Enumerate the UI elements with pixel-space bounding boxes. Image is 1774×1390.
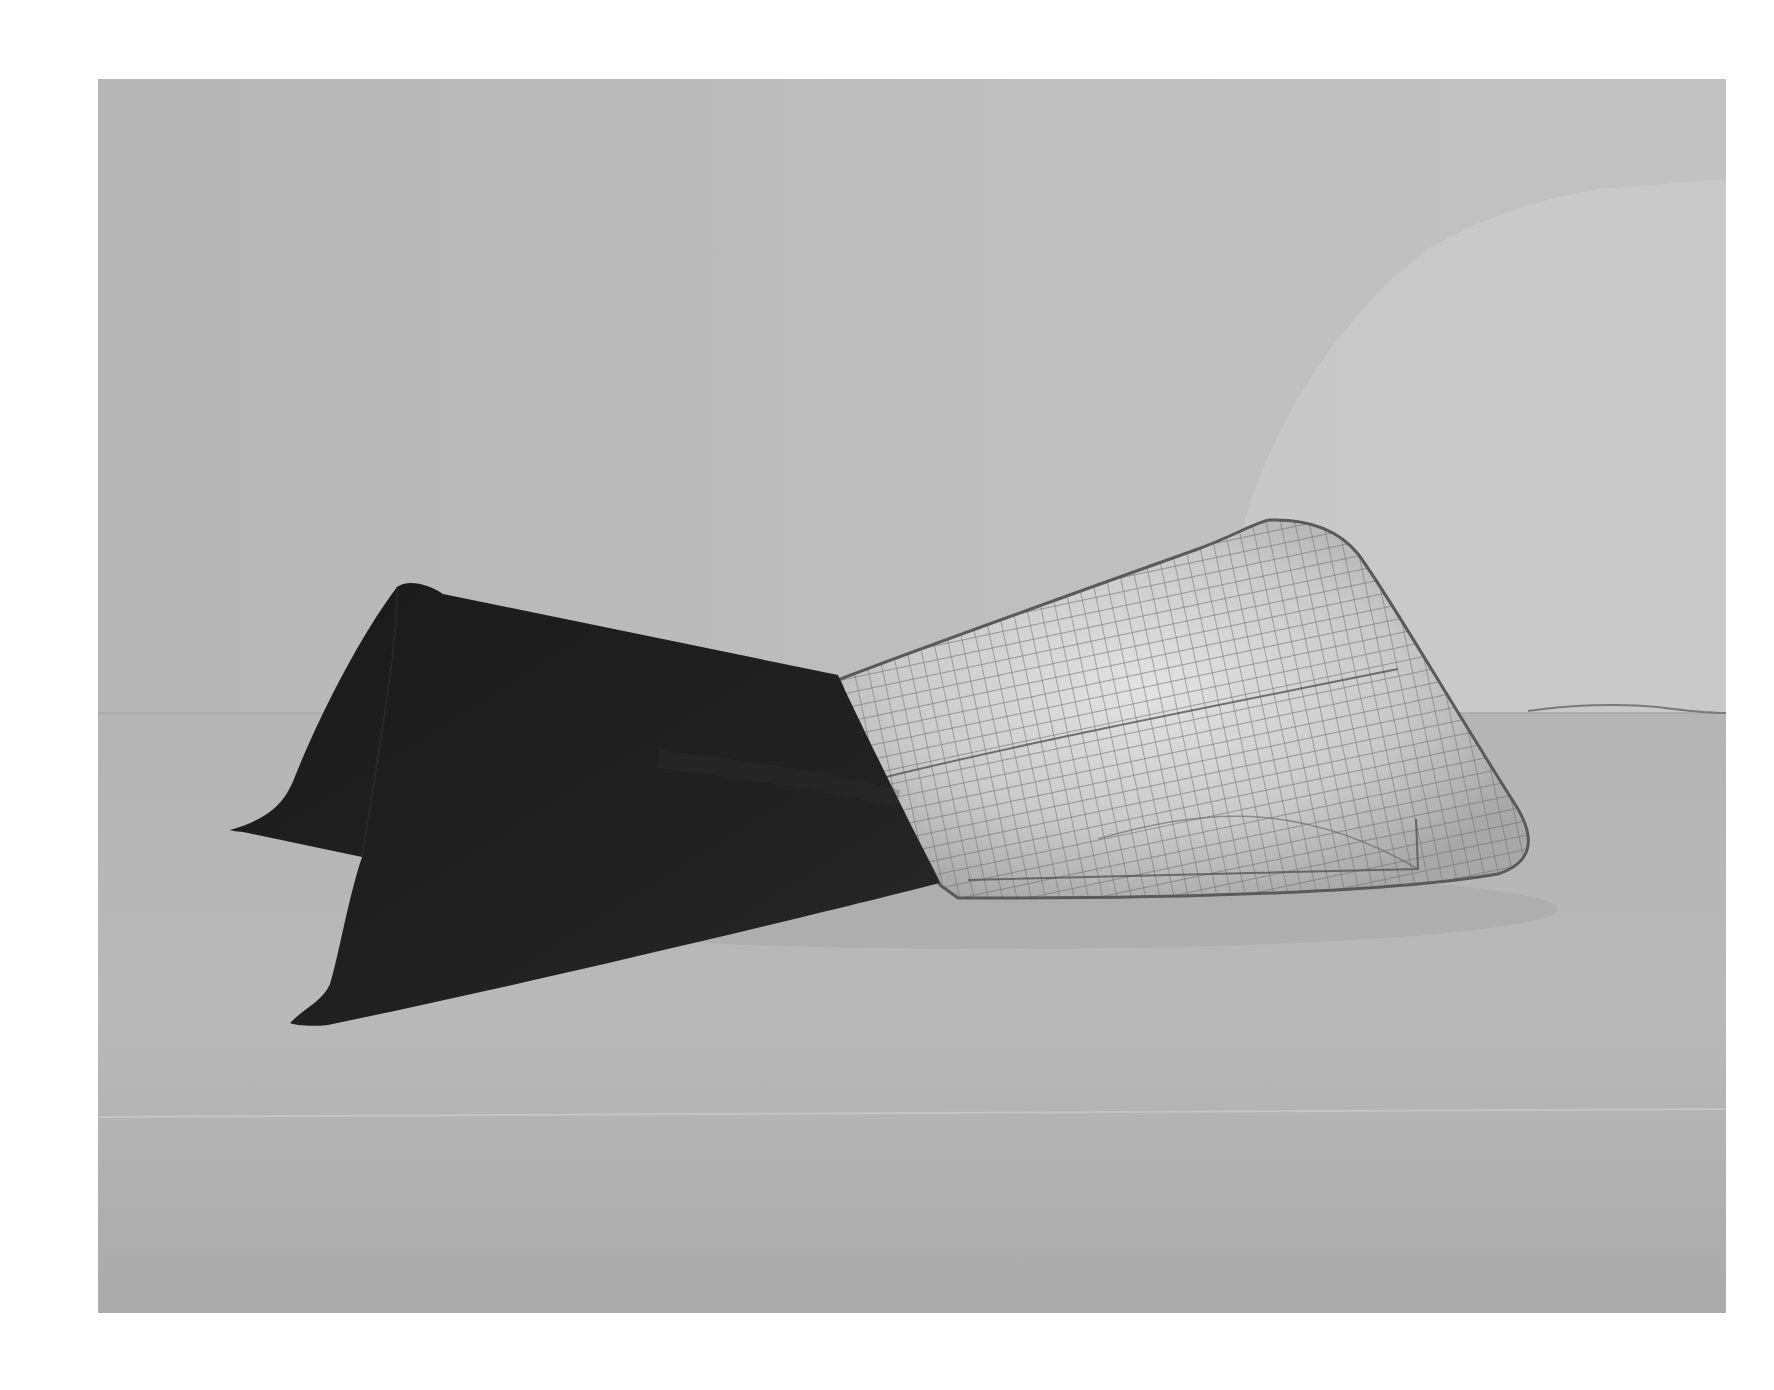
photograph (98, 79, 1726, 1313)
sculpture-scene (98, 79, 1726, 1313)
